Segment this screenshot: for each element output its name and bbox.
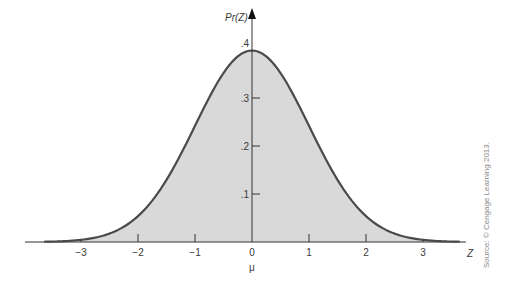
x-tick-label: −2: [132, 247, 144, 258]
x-tick-label: 3: [420, 247, 426, 258]
x-tick-label: 0: [249, 247, 255, 258]
y-tick-label: .4: [241, 38, 250, 49]
mu-label: μ: [249, 262, 255, 273]
y-axis-title: Pr(Z): [225, 12, 248, 23]
x-tick-label: −1: [189, 247, 201, 258]
y-axis-arrow-icon: [248, 8, 256, 19]
x-axis-title: Z: [466, 248, 474, 259]
source-credit: Source: © Cengage Learning 2013.: [482, 142, 491, 268]
y-tick-label: .1: [241, 189, 250, 200]
y-tick-label: .2: [241, 141, 250, 152]
y-tick-label: .3: [241, 93, 250, 104]
normal-distribution-chart: −3−2−10123.1.2.3.4 Pr(Z) Z μ: [0, 0, 507, 284]
x-tick-label: −3: [75, 247, 87, 258]
x-tick-label: 1: [306, 247, 312, 258]
x-tick-label: 2: [363, 247, 369, 258]
